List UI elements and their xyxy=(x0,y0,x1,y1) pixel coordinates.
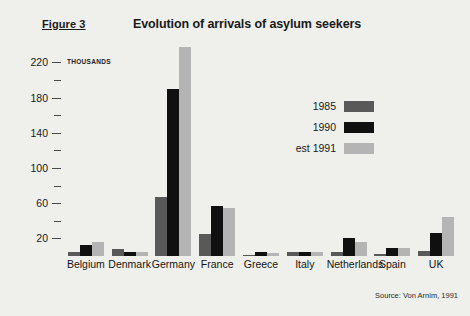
y-axis-tick-mark xyxy=(54,186,61,187)
bar-uk-1990 xyxy=(430,233,442,256)
bar-group xyxy=(370,40,414,256)
y-axis-tick-mark xyxy=(54,80,61,81)
source-note: Source: Von Arnim, 1991 xyxy=(375,291,458,300)
y-axis-tick-label: 220 xyxy=(30,56,48,68)
bar-germany-est-1991 xyxy=(179,47,191,256)
chart-legend: 19851990est 1991 xyxy=(284,100,374,154)
legend-swatch xyxy=(344,143,374,154)
x-axis-label-belgium: Belgium xyxy=(64,258,108,270)
y-axis-tick-label: 60 xyxy=(36,197,48,209)
bar-group xyxy=(239,40,283,256)
y-axis-tick-mark xyxy=(54,221,61,222)
x-axis-label-greece: Greece xyxy=(239,258,283,270)
y-axis-tick-mark xyxy=(52,238,61,239)
bar-france-1990 xyxy=(211,206,223,256)
bar-denmark-est-1991 xyxy=(136,252,148,256)
bar-group xyxy=(152,40,196,256)
bar-belgium-est-1991 xyxy=(92,242,104,256)
y-axis-tick-mark xyxy=(54,150,61,151)
bar-netherlands-1985 xyxy=(331,252,343,256)
x-axis-label-spain: Spain xyxy=(370,258,414,270)
x-axis-label-italy: Italy xyxy=(283,258,327,270)
legend-label: 1990 xyxy=(284,121,336,133)
x-axis-label-netherlands: Netherlands xyxy=(327,258,371,270)
bar-denmark-1985 xyxy=(112,249,124,256)
y-axis-tick-mark xyxy=(52,133,61,134)
legend-item-est-1991: est 1991 xyxy=(284,142,374,154)
bar-italy-1990 xyxy=(299,252,311,256)
bar-group xyxy=(64,40,108,256)
bar-spain-1985 xyxy=(374,254,386,256)
figure-label: Figure 3 xyxy=(42,18,86,30)
bar-italy-1985 xyxy=(287,252,299,256)
bar-belgium-1985 xyxy=(68,252,80,256)
bar-france-1985 xyxy=(199,234,211,256)
y-axis-tick-label: 20 xyxy=(36,232,48,244)
chart-canvas: Figure 3 Evolution of arrivals of asylum… xyxy=(0,0,470,316)
bar-france-est-1991 xyxy=(223,208,235,256)
bar-spain-est-1991 xyxy=(398,248,410,256)
y-axis-tick-label: 140 xyxy=(30,127,48,139)
bar-greece-1985 xyxy=(243,255,255,256)
bar-belgium-1990 xyxy=(80,245,92,256)
bar-uk-1985 xyxy=(418,251,430,256)
y-axis-tick-label: 180 xyxy=(30,92,48,104)
bar-spain-1990 xyxy=(386,248,398,256)
bar-uk-est-1991 xyxy=(442,217,454,256)
y-axis-tick-mark xyxy=(52,62,61,63)
bar-netherlands-est-1991 xyxy=(355,242,367,256)
y-axis-tick-mark xyxy=(52,168,61,169)
chart-title: Evolution of arrivals of asylum seekers xyxy=(133,17,361,31)
legend-swatch xyxy=(344,101,374,112)
legend-label: est 1991 xyxy=(284,142,336,154)
x-axis-label-france: France xyxy=(195,258,239,270)
bar-denmark-1990 xyxy=(124,252,136,256)
bar-germany-1985 xyxy=(155,197,167,256)
bar-netherlands-1990 xyxy=(343,238,355,256)
bar-germany-1990 xyxy=(167,89,179,256)
x-axis-label-denmark: Denmark xyxy=(108,258,152,270)
y-axis-tick-mark xyxy=(52,98,61,99)
legend-item-1985: 1985 xyxy=(284,100,374,112)
y-axis-tick-label: 100 xyxy=(30,162,48,174)
bar-group xyxy=(108,40,152,256)
legend-swatch xyxy=(344,122,374,133)
bar-greece-est-1991 xyxy=(267,253,279,256)
legend-item-1990: 1990 xyxy=(284,121,374,133)
bar-greece-1990 xyxy=(255,252,267,256)
bar-italy-est-1991 xyxy=(311,252,323,256)
x-axis-label-uk: UK xyxy=(414,258,458,270)
bar-group xyxy=(195,40,239,256)
bar-group xyxy=(414,40,458,256)
x-axis-label-germany: Germany xyxy=(152,258,196,270)
y-axis-tick-mark xyxy=(54,115,61,116)
y-axis-tick-mark xyxy=(52,203,61,204)
legend-label: 1985 xyxy=(284,100,336,112)
plot-area xyxy=(64,40,458,256)
